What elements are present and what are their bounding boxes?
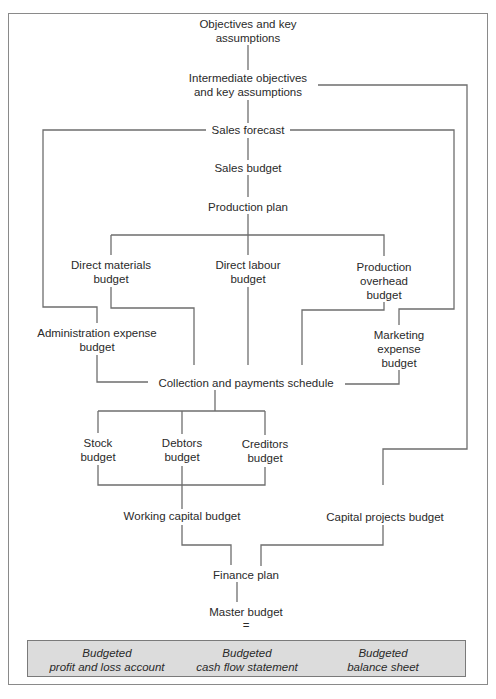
node-administration-expense: Administration expense budget — [34, 326, 160, 354]
node-production-overhead: Production overhead budget — [328, 260, 440, 302]
node-direct-materials: Direct materials budget — [68, 258, 154, 286]
node-debtors-budget: Debtors budget — [159, 436, 205, 464]
component-balance-sheet: Budgeted balance sheet — [347, 646, 419, 674]
link-forecast-admin — [43, 130, 206, 323]
node-finance-plan: Finance plan — [210, 568, 282, 582]
node-objectives: Objectives and key assumptions — [196, 17, 299, 45]
node-sales-forecast: Sales forecast — [209, 123, 288, 137]
equals-sign: = — [240, 618, 253, 632]
link-capital-finance — [261, 525, 383, 566]
node-creditors-budget: Creditors budget — [239, 437, 292, 465]
node-production-plan: Production plan — [205, 200, 291, 214]
node-capital-projects: Capital projects budget — [323, 510, 447, 524]
node-collection-payments: Collection and payments schedule — [155, 376, 336, 390]
node-direct-labour: Direct labour budget — [212, 258, 283, 286]
node-sales-budget: Sales budget — [211, 161, 284, 175]
link-working-finance — [182, 525, 231, 565]
node-working-capital: Working capital budget — [121, 509, 244, 523]
master-budget-components-box: Budgeted profit and loss account Budgete… — [27, 640, 466, 677]
node-intermediate-objectives: Intermediate objectives and key assumpti… — [186, 71, 310, 99]
link-admin-collection — [97, 355, 148, 382]
node-master-budget: Master budget — [206, 605, 286, 619]
node-stock-budget: Stock budget — [77, 436, 118, 464]
component-profit-loss: Budgeted profit and loss account — [49, 646, 164, 674]
component-cash-flow: Budgeted cash flow statement — [196, 646, 298, 674]
node-marketing-expense: Marketing expense budget — [351, 328, 448, 370]
